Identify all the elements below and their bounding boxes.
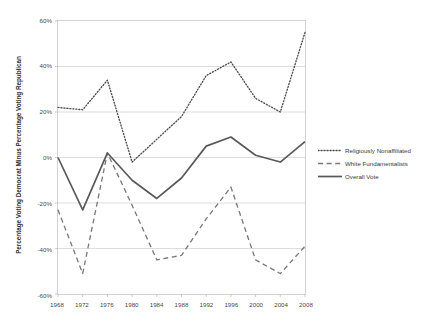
plot-area [57,20,306,295]
legend-swatch-dotted [318,146,342,155]
legend-label: Overall Vote [345,173,379,181]
chart-figure: Percentage Voting Democrat Minus Percent… [0,0,424,329]
y-tick-label: -60% [26,292,52,299]
y-tick-label: 60% [26,17,52,24]
legend-swatch-solid [318,172,342,181]
y-tick-label: 20% [26,108,52,115]
y-tick-label: -20% [26,200,52,207]
legend-swatch-dashed [318,159,342,168]
series-line-white-fundamentalists [58,153,305,274]
legend-label: Religiously Nonaffiliated [345,147,411,155]
x-tick-label: 2008 [291,301,321,308]
y-tick-label: 40% [26,62,52,69]
y-tick-label: -40% [26,246,52,253]
legend-item[interactable]: Religiously Nonaffiliated [318,145,422,156]
series-line-religiously-nonaffiliated [58,32,305,162]
legend-item[interactable]: Overall Vote [318,171,422,182]
y-tick-label: 0% [26,154,52,161]
chart-legend: Religiously NonaffiliatedWhite Fundament… [318,145,422,184]
legend-item[interactable]: White Fundamentalists [318,158,422,169]
data-series-layer [58,21,305,294]
y-axis-title: Percentage Voting Democrat Minus Percent… [12,5,26,305]
legend-label: White Fundamentalists [345,160,408,168]
series-line-overall-vote [58,137,305,210]
